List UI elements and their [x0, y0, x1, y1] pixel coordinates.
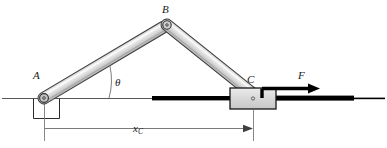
- pin-joint-a: [40, 94, 49, 103]
- mechanism-drawing: [0, 0, 387, 148]
- label-dimension-xc: xC: [133, 123, 143, 136]
- dimension-subscript: C: [138, 127, 143, 136]
- pin-joint-b: [163, 21, 171, 29]
- dimension-xc-line: [45, 125, 254, 132]
- angle-arc: [109, 66, 111, 98]
- link-ab: [36, 19, 171, 106]
- label-angle-theta: θ: [115, 77, 120, 88]
- label-point-a: A: [33, 70, 40, 81]
- label-point-c: C: [247, 74, 254, 85]
- label-force-f: F: [298, 70, 305, 81]
- slider-block: [230, 88, 276, 109]
- mechanism-figure: A B C F θ xC: [0, 0, 387, 148]
- label-point-b: B: [162, 4, 169, 15]
